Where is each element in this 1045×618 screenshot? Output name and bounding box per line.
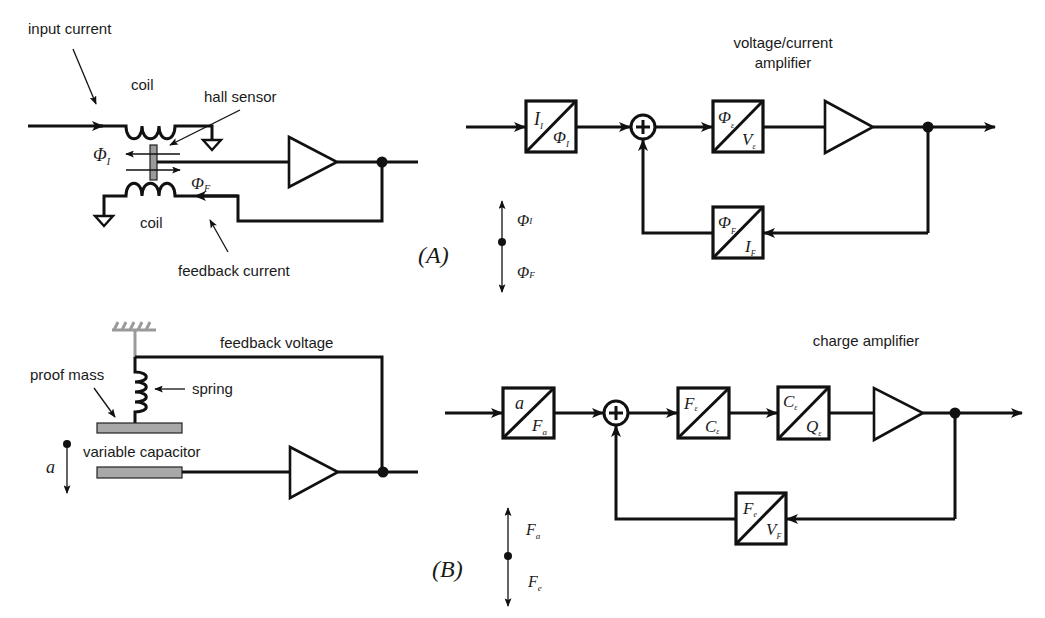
capacitor-fixed-plate bbox=[97, 467, 182, 478]
phi-i-symbol: ΦI bbox=[93, 145, 111, 167]
coil-top-label: coil bbox=[131, 76, 154, 93]
panel-b-block-diagram: charge amplifier a Fa Fε Cε Cε Qε bbox=[445, 332, 1022, 544]
summing-junction-a bbox=[631, 115, 655, 139]
proof-mass-pointer-arrow bbox=[94, 388, 115, 417]
hall-sensor-label: hall sensor bbox=[204, 88, 277, 105]
legend-f-e: Fe bbox=[527, 573, 542, 593]
legend-phi-f: ΦF bbox=[517, 264, 535, 281]
spring-label: spring bbox=[192, 380, 233, 397]
variable-capacitor-label: variable capacitor bbox=[83, 443, 201, 460]
transfer-block-feedback-flux-current: ΦF IF bbox=[713, 207, 763, 258]
legend-phi-i: ΦI bbox=[517, 212, 533, 229]
transfer-block-flux-to-voltage: Φε Vε bbox=[713, 101, 763, 152]
bottom-coil-icon bbox=[104, 183, 195, 216]
coil-bottom-label: coil bbox=[140, 214, 163, 231]
feedback-return-wire-a bbox=[643, 152, 713, 233]
transfer-block-accel-to-force: a Fa bbox=[503, 388, 554, 438]
direction-origin-dot-b bbox=[504, 552, 512, 560]
panel-a-legend: (A) ΦI ΦF bbox=[418, 201, 535, 292]
panel-b-circuit: feedback voltage spring proof mass varia… bbox=[30, 322, 418, 498]
feedback-return-wire-b bbox=[616, 438, 736, 519]
feedback-current-label: feedback current bbox=[178, 262, 291, 279]
amplifier-icon-b bbox=[290, 447, 338, 498]
transfer-block-force-to-capacitance: Fε Cε bbox=[678, 388, 729, 438]
input-current-pointer-arrow bbox=[73, 49, 96, 104]
ground-icon-bottom bbox=[95, 216, 113, 226]
amplifier-icon-a bbox=[289, 137, 337, 187]
diagram-canvas: input current coil hall sensor ΦI ΦF coi… bbox=[0, 0, 1045, 618]
panel-a-label: (A) bbox=[418, 242, 449, 268]
transfer-block-current-to-flux: II ΦI bbox=[526, 101, 576, 152]
feedback-voltage-label: feedback voltage bbox=[220, 334, 333, 351]
hall-sensor-icon bbox=[150, 145, 157, 180]
direction-origin-dot-a bbox=[498, 238, 506, 246]
proof-mass-label: proof mass bbox=[30, 366, 104, 383]
charge-amplifier-icon bbox=[874, 388, 923, 440]
panel-a-block-diagram: voltage/current amplifier II ΦI Φε Vε bbox=[466, 34, 995, 258]
junction-node-b bbox=[378, 467, 389, 478]
proof-mass-plate bbox=[97, 423, 182, 433]
amplifier-icon-a-block bbox=[825, 101, 873, 153]
svg-text:a: a bbox=[515, 393, 524, 413]
charge-amplifier-label: charge amplifier bbox=[813, 332, 920, 349]
fixed-mount-icon bbox=[112, 322, 156, 358]
transfer-block-capacitance-to-charge: Cε Qε bbox=[778, 387, 829, 439]
voltage-current-amplifier-label-line2: amplifier bbox=[755, 54, 812, 71]
summing-junction-b bbox=[604, 401, 628, 425]
ground-icon-top bbox=[203, 140, 221, 150]
panel-b-legend: (B) Fa Fe bbox=[432, 508, 542, 606]
voltage-current-amplifier-label-line1: voltage/current bbox=[733, 34, 833, 51]
phi-f-symbol: ΦF bbox=[191, 174, 211, 194]
input-current-label: input current bbox=[28, 20, 112, 37]
transfer-block-feedback-force-voltage: Fe VF bbox=[736, 493, 786, 544]
legend-f-a: Fa bbox=[525, 521, 541, 541]
panel-a-circuit: input current coil hall sensor ΦI ΦF coi… bbox=[28, 20, 418, 279]
spring-icon bbox=[135, 357, 146, 423]
feedback-current-pointer-arrow bbox=[210, 220, 228, 252]
accel-label: a bbox=[46, 457, 55, 477]
panel-b-label: (B) bbox=[432, 556, 463, 582]
